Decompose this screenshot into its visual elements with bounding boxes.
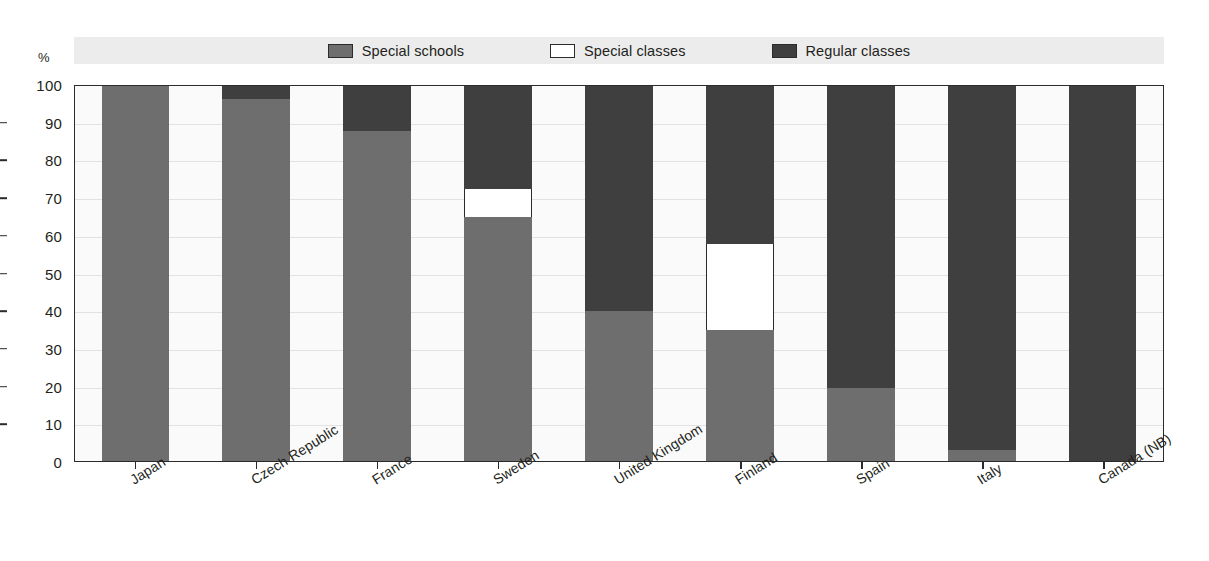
legend-item-special-classes: Special classes [550,43,685,59]
y-axis: 0102030405060708090100 [0,85,74,462]
bar-segment-special-schools [102,86,170,461]
y-axis-tick-label: 50 [45,265,62,282]
y-tick-mark [0,122,7,124]
y-tick-mark [0,348,7,350]
x-axis: JapanCzech RepublicFranceSwedenUnited Ki… [74,462,1164,561]
y-axis-tick-label: 30 [45,340,62,357]
y-tick-mark [0,273,7,275]
bar-segment-special-schools [706,330,774,461]
y-axis-tick-label: 10 [45,416,62,433]
bar-segment-regular-classes [343,86,411,131]
bar-segment-regular-classes [222,86,290,99]
legend-item-special-schools: Special schools [328,43,464,59]
legend-label-regular-classes: Regular classes [806,43,911,59]
y-axis-tick-label: 20 [45,378,62,395]
legend-label-special-schools: Special schools [362,43,464,59]
bar-slot [559,86,680,461]
stacked-bar[interactable] [464,86,532,461]
bar-slot [921,86,1042,461]
bar-slot [679,86,800,461]
stacked-bar[interactable] [706,86,774,461]
legend-label-special-classes: Special classes [584,43,685,59]
y-axis-tick-label: 90 [45,114,62,131]
bar-slot [1042,86,1163,461]
y-axis-unit-label: % [38,50,50,65]
bar-segment-special-schools [827,388,895,461]
chart-legend: Special schools Special classes Regular … [74,37,1164,64]
legend-swatch-special-classes [550,44,575,58]
x-axis-tick-label: Italy [974,460,1005,487]
bar-segment-special-schools [585,311,653,461]
bar-segment-special-schools [343,131,411,461]
plot-area [74,85,1164,462]
stacked-bar[interactable] [222,86,290,461]
y-axis-tick-label: 60 [45,227,62,244]
bar-slot [196,86,317,461]
y-tick-mark [0,197,7,199]
bar-slot [317,86,438,461]
bar-segment-regular-classes [948,86,1016,450]
bar-segment-special-schools [948,450,1016,461]
bar-segment-special-classes [706,244,774,330]
bar-segment-regular-classes [827,86,895,388]
stacked-bar[interactable] [102,86,170,461]
bar-slot [800,86,921,461]
legend-swatch-regular-classes [772,44,797,58]
y-axis-tick-label: 100 [36,77,62,94]
legend-item-regular-classes: Regular classes [772,43,911,59]
y-tick-mark [0,424,7,426]
bar-segment-special-schools [464,217,532,461]
bar-segment-regular-classes [706,86,774,244]
y-tick-mark [0,386,7,388]
y-axis-tick-label: 80 [45,152,62,169]
stacked-bar[interactable] [585,86,653,461]
stacked-bar[interactable] [343,86,411,461]
bar-group [75,86,1163,461]
y-axis-tick-label: 70 [45,190,62,207]
y-tick-mark [0,235,7,237]
bar-slot [438,86,559,461]
bar-slot [75,86,196,461]
y-tick-mark [0,310,7,312]
stacked-bar[interactable] [827,86,895,461]
stacked-bar[interactable] [948,86,1016,461]
bar-segment-special-classes [464,189,532,217]
y-axis-tick-label: 0 [53,454,62,471]
legend-swatch-special-schools [328,44,353,58]
bar-segment-regular-classes [1069,86,1137,461]
stacked-bar[interactable] [1069,86,1137,461]
y-axis-tick-label: 40 [45,303,62,320]
bar-segment-special-schools [222,99,290,461]
bar-segment-regular-classes [585,86,653,311]
y-tick-mark [0,160,7,162]
bar-segment-regular-classes [464,86,532,189]
